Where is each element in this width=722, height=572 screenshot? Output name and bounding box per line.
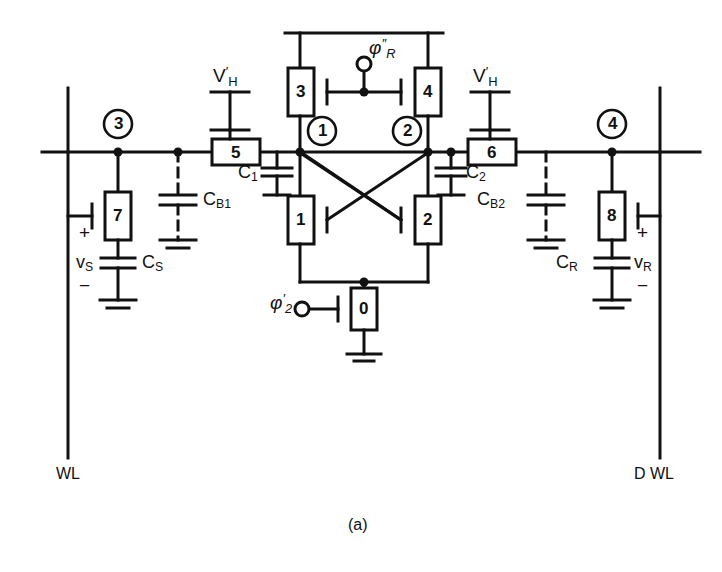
word-line-right-label: D WL — [634, 465, 674, 483]
transistor-1-label: 1 — [296, 210, 305, 230]
transistor-5-label: 5 — [231, 143, 240, 163]
junction-dot-cb1 — [174, 148, 183, 157]
voltage-vs-minus-sign: − — [79, 275, 90, 297]
capacitor-c2-label: C2 — [466, 162, 486, 184]
phi-r-junction-dot — [360, 88, 369, 97]
phi-2-terminal — [295, 302, 309, 316]
clock-phi-r-label: φ″R — [369, 36, 395, 61]
supply-vh-right-label: V′H — [473, 64, 498, 89]
junction-dot-node2 — [424, 148, 433, 157]
junction-dot-node4 — [608, 148, 617, 157]
node-4-label: 4 — [608, 114, 617, 134]
circuit-schematic — [0, 0, 722, 572]
supply-vh-left-label: V′H — [213, 64, 238, 89]
cross-couple-wire-a — [302, 154, 401, 220]
clock-phi-2-label: φ′2 — [270, 291, 292, 316]
transistor-0-label: 0 — [359, 299, 368, 319]
node-2-label: 2 — [403, 121, 412, 141]
transistor-4-label: 4 — [423, 82, 432, 102]
junction-dot-c2 — [447, 148, 456, 157]
node-1-label: 1 — [318, 121, 327, 141]
transistor-7-label: 7 — [113, 206, 122, 226]
voltage-vr-plus-sign: + — [637, 222, 648, 244]
figure-caption: (a) — [348, 516, 368, 534]
transistor-3-label: 3 — [296, 82, 305, 102]
capacitor-c1-label: C1 — [238, 162, 258, 184]
capacitor-cb1-label: CB1 — [203, 189, 231, 211]
junction-dot-node3 — [114, 148, 123, 157]
transistor-2-label: 2 — [423, 210, 432, 230]
cross-couple-wire-b — [327, 154, 426, 220]
voltage-vr-minus-sign: − — [637, 275, 648, 297]
voltage-vs-plus-sign: + — [79, 222, 90, 244]
voltage-vs-label: vS — [76, 252, 93, 274]
junction-dot-node1 — [296, 148, 305, 157]
capacitor-cs-label: CS — [142, 252, 163, 274]
node-3-label: 3 — [114, 114, 123, 134]
word-line-left-label: WL — [56, 465, 80, 483]
transistor-8-label: 8 — [607, 206, 616, 226]
transistor-6-label: 6 — [487, 143, 496, 163]
capacitor-cr-label: CR — [556, 252, 578, 274]
capacitor-cb2-label: CB2 — [477, 189, 505, 211]
voltage-vr-label: vR — [634, 252, 652, 274]
